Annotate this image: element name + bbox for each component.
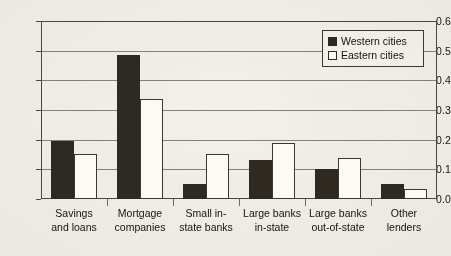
bar-eastern: [404, 189, 427, 199]
category-separator-tick: [371, 199, 372, 206]
bar-group: [41, 21, 107, 199]
bar-group: [107, 21, 173, 199]
legend-swatch-eastern-icon: [328, 51, 337, 60]
legend-item-western: Western cities: [328, 34, 418, 48]
category-separator-tick: [107, 199, 108, 206]
bar-eastern: [140, 99, 163, 199]
category-label-line: Other: [363, 207, 445, 221]
chart-legend: Western cities Eastern cities: [322, 30, 424, 67]
bar-western: [117, 55, 140, 199]
category-separator-tick: [173, 199, 174, 206]
bar-eastern: [272, 143, 295, 199]
legend-label-western: Western cities: [341, 35, 407, 47]
bar-western: [315, 169, 338, 199]
bar-eastern: [206, 154, 229, 199]
legend-label-eastern: Eastern cities: [341, 49, 404, 61]
category-label-line: lenders: [363, 221, 445, 235]
bar-western: [249, 160, 272, 199]
legend-item-eastern: Eastern cities: [328, 48, 418, 62]
category-separator-tick: [239, 199, 240, 206]
y-axis-tick-mark: [36, 199, 41, 200]
category-label: Otherlenders: [363, 207, 445, 234]
bar-eastern: [338, 158, 361, 199]
bar-chart: 0.00.10.20.30.40.50.6 Savingsand loansMo…: [0, 0, 451, 256]
bar-western: [51, 141, 74, 199]
bar-group: [173, 21, 239, 199]
legend-swatch-western-icon: [328, 37, 337, 46]
bar-western: [183, 184, 206, 199]
category-separator-tick: [305, 199, 306, 206]
bar-group: [239, 21, 305, 199]
bar-western: [381, 184, 404, 199]
bar-eastern: [74, 154, 97, 199]
